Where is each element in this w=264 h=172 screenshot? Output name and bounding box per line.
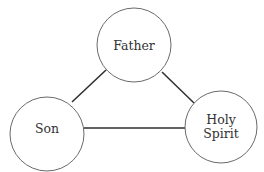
- edge-son-father: [72, 70, 106, 102]
- node-holy-spirit: Holy Spirit: [185, 91, 257, 163]
- node-father: Father: [97, 8, 171, 82]
- son-label: Son: [35, 121, 59, 136]
- holy-spirit-label-line2: Spirit: [203, 126, 239, 141]
- trinity-diagram: Father Son Holy Spirit: [0, 0, 264, 172]
- father-label: Father: [113, 38, 155, 53]
- node-son: Son: [10, 97, 84, 171]
- edge-father-holy-spirit: [162, 72, 194, 103]
- holy-spirit-label-line1: Holy: [206, 112, 236, 127]
